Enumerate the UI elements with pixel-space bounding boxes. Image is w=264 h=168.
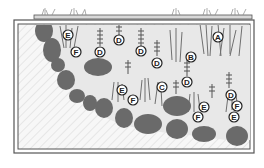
label-f: F <box>193 112 203 122</box>
svg-text:F: F <box>235 102 240 111</box>
svg-text:F: F <box>131 96 136 105</box>
svg-text:D: D <box>97 48 103 57</box>
label-a: A <box>213 32 223 42</box>
label-d: D <box>95 47 105 57</box>
svg-text:F: F <box>74 48 79 57</box>
label-c: C <box>157 82 167 92</box>
label-b: B <box>186 52 196 62</box>
svg-text:C: C <box>159 83 165 92</box>
svg-text:E: E <box>201 103 207 112</box>
svg-text:E: E <box>119 86 125 95</box>
svg-text:E: E <box>231 113 237 122</box>
label-d: D <box>136 46 146 56</box>
label-d: D <box>114 35 124 45</box>
svg-text:D: D <box>154 59 160 68</box>
label-e: E <box>199 102 209 112</box>
ground-strip <box>34 15 252 19</box>
label-f: F <box>232 101 242 111</box>
svg-text:D: D <box>228 91 234 100</box>
label-e: E <box>63 30 73 40</box>
label-d: D <box>182 77 192 87</box>
svg-text:D: D <box>138 47 144 56</box>
label-d: D <box>226 90 236 100</box>
label-f: F <box>71 47 81 57</box>
svg-text:E: E <box>65 31 71 40</box>
label-d: D <box>152 58 162 68</box>
svg-text:F: F <box>196 113 201 122</box>
label-f: F <box>128 95 138 105</box>
svg-text:D: D <box>184 78 190 87</box>
label-e: E <box>117 85 127 95</box>
label-e: E <box>229 112 239 122</box>
svg-text:B: B <box>188 53 194 62</box>
svg-text:A: A <box>215 33 221 42</box>
pond-diagram: E F D D D D B A D E F C D F E E F <box>0 0 264 168</box>
grass-tufts <box>42 8 246 15</box>
svg-text:D: D <box>116 36 122 45</box>
